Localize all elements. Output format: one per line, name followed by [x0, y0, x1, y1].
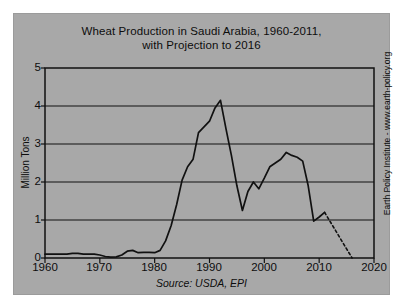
y-tick-label: 5 [22, 61, 41, 73]
y-tick-label: 1 [22, 213, 41, 225]
source-note: Source: USDA, EPI [14, 277, 389, 289]
y-tick-label: 4 [22, 99, 41, 111]
credit-watermark: Earth Policy Institute - www.earth-polic… [382, 33, 393, 235]
x-tick-label: 2000 [247, 261, 281, 273]
x-tick-label: 1960 [28, 261, 62, 273]
plot-area [14, 14, 391, 296]
chart-panel: Wheat Production in Saudi Arabia, 1960-2… [13, 13, 390, 295]
x-tick-label: 1970 [82, 261, 116, 273]
x-tick-label: 1980 [137, 261, 171, 273]
screenshot-root: Wheat Production in Saudi Arabia, 1960-2… [0, 0, 404, 308]
y-axis-label: Million Tons [20, 125, 33, 201]
x-tick-label: 1990 [192, 261, 226, 273]
x-tick-label: 2010 [302, 261, 336, 273]
x-tick-label: 2020 [357, 261, 391, 273]
